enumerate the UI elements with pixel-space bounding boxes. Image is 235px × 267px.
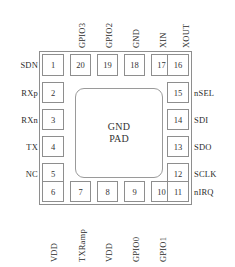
gnd-exposed-pad: GND PAD (75, 88, 163, 178)
pin-number-20: 20 (76, 60, 85, 70)
pin-label-vdd-6: VDD (49, 243, 59, 262)
pin-number-14: 14 (174, 115, 183, 125)
pin-number-9: 9 (132, 187, 136, 197)
pin-pad-6[interactable]: 6 (42, 181, 64, 202)
pin-pad-9[interactable]: 9 (124, 181, 145, 202)
pin-pad-11[interactable]: 11 (167, 181, 189, 202)
pin-pad-20[interactable]: 20 (70, 54, 91, 76)
pin-number-8: 8 (105, 187, 109, 197)
pin-number-16: 16 (174, 60, 183, 70)
pin-label-gpio2: GPIO2 (104, 23, 114, 48)
pin-number-3: 3 (51, 115, 55, 125)
pin-pad-15[interactable]: 15 (167, 82, 189, 103)
pin-number-6: 6 (51, 187, 55, 197)
pin-pad-4[interactable]: 4 (42, 136, 64, 157)
pin-pad-2[interactable]: 2 (42, 82, 64, 103)
pin-number-15: 15 (174, 88, 183, 98)
pin-pad-3[interactable]: 3 (42, 109, 64, 130)
pin-label-nsel: nSEL (194, 88, 235, 98)
pin-label-vdd-8: VDD (104, 243, 114, 262)
gnd-pad-line1: GND (108, 121, 130, 133)
pin-number-17: 17 (157, 60, 166, 70)
pin-label-sdn: SDN (0, 60, 38, 70)
pin-label-gnd: GND (131, 29, 141, 48)
pin-number-10: 10 (157, 187, 166, 197)
pin-label-gpio0: GPIO0 (131, 237, 141, 262)
pin-pad-1[interactable]: 1 (42, 54, 64, 76)
pin-number-18: 18 (130, 60, 139, 70)
pin-number-13: 13 (174, 142, 183, 152)
pin-label-sdi: SDI (194, 115, 235, 125)
pin-label-xout: XOUT (181, 24, 191, 48)
pin-number-1: 1 (51, 60, 55, 70)
pin-number-2: 2 (51, 88, 55, 98)
pin-pad-7[interactable]: 7 (70, 181, 91, 202)
pin-number-11: 11 (174, 187, 182, 197)
pin-label-rxn: RXn (0, 115, 38, 125)
pin-pad-13[interactable]: 13 (167, 136, 189, 157)
pin-label-sdo: SDO (194, 142, 235, 152)
pin-number-5: 5 (51, 169, 55, 179)
pin-pad-16[interactable]: 16 (167, 54, 189, 76)
pin-label-gpio1: GPIO1 (158, 237, 168, 262)
pin-label-rxp: RXp (0, 88, 38, 98)
pin-label-nc: NC (0, 169, 38, 179)
pin-pad-14[interactable]: 14 (167, 109, 189, 130)
pin-pad-18[interactable]: 18 (124, 54, 145, 76)
ic-pinout-diagram: GND PAD 1 20 19 18 17 16 2 3 4 5 15 14 1… (0, 0, 235, 267)
pin-label-gpio3: GPIO3 (77, 23, 87, 48)
pin-number-7: 7 (78, 187, 82, 197)
pin-number-19: 19 (103, 60, 112, 70)
pin-pad-19[interactable]: 19 (97, 54, 118, 76)
pin-label-xin: XIN (158, 32, 168, 48)
pin-number-4: 4 (51, 142, 55, 152)
gnd-pad-line2: PAD (109, 133, 129, 145)
pin-pad-8[interactable]: 8 (97, 181, 118, 202)
pin-number-12: 12 (174, 169, 183, 179)
pin-label-tx: TX (0, 142, 38, 152)
pin-label-nirq: nIRQ (194, 187, 235, 197)
pin-label-sclk: SCLK (194, 169, 235, 179)
pin-label-txramp: TXRamp (77, 229, 87, 262)
